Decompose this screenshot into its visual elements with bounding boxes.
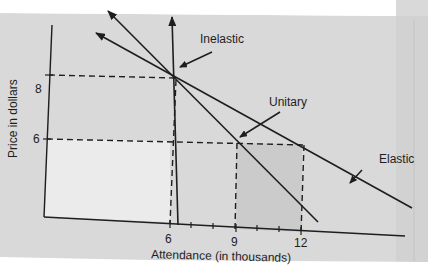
y-axis-title: Price in dollars xyxy=(6,79,20,158)
y-tick-label-8: 8 xyxy=(35,82,42,96)
page-margin-right xyxy=(396,16,428,271)
label-inelastic: Inelastic xyxy=(200,32,244,46)
shaded-region-light xyxy=(45,139,170,222)
label-elastic: Elastic xyxy=(379,152,414,166)
chart-page: Inelastic Unitary Elastic 8 6 6 9 12 Att… xyxy=(0,0,428,271)
x-tick-label-6: 6 xyxy=(165,232,172,246)
y-tick-label-6: 6 xyxy=(33,132,40,146)
x-tick-label-12: 12 xyxy=(294,236,307,250)
x-tick-label-9: 9 xyxy=(231,235,238,249)
shaded-region-dark xyxy=(236,143,302,232)
label-unitary: Unitary xyxy=(269,95,307,109)
